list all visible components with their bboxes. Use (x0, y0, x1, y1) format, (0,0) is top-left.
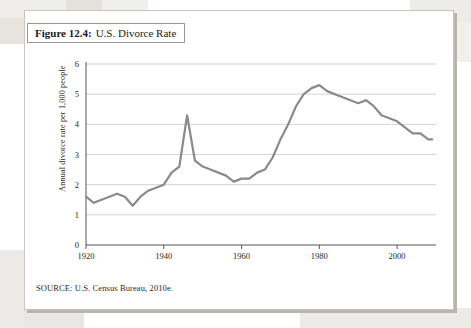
y-tick-labels: 0123456 (75, 59, 80, 250)
svg-text:3: 3 (75, 150, 79, 160)
x-tick-labels: 19201940196019802000 (78, 251, 406, 261)
figure-number: Figure 12.4: (35, 27, 92, 39)
svg-text:1960: 1960 (233, 251, 250, 261)
svg-text:6: 6 (75, 59, 79, 69)
chart-plot-area: Annual divorce rate per 1,000 people 012… (24, 52, 454, 277)
svg-text:4: 4 (75, 119, 80, 129)
data-series-line (86, 85, 432, 206)
background-swatch (0, 250, 24, 328)
svg-text:5: 5 (75, 89, 79, 99)
svg-text:0: 0 (75, 240, 79, 250)
svg-text:1920: 1920 (78, 251, 95, 261)
x-tick-marks (86, 245, 397, 249)
figure-title-bar: Figure 12.4: U.S. Divorce Rate (27, 23, 185, 43)
source-note: SOURCE: U.S. Census Bureau, 2010e. (36, 283, 173, 293)
divorce-rate-line-chart: 0123456 19201940196019802000 (24, 52, 454, 277)
svg-text:1980: 1980 (311, 251, 328, 261)
svg-text:2: 2 (75, 180, 79, 190)
axes (86, 62, 436, 245)
svg-text:2000: 2000 (389, 251, 406, 261)
page-title: U.S. Divorce Rate (96, 27, 177, 39)
grid-lines (86, 64, 436, 215)
svg-text:1: 1 (75, 210, 79, 220)
svg-text:1940: 1940 (155, 251, 172, 261)
